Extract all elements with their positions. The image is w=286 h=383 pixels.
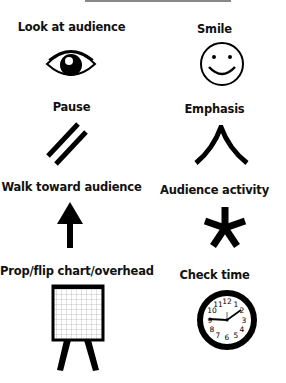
clock-numeral-4: 4 — [240, 325, 245, 334]
eye-icon — [45, 44, 97, 82]
label-walk-toward-audience: Walk toward audience — [0, 180, 143, 194]
label-smile: Smile — [143, 22, 286, 36]
clock-numeral-9: 9 — [208, 316, 213, 325]
label-look-at-audience: Look at audience — [0, 20, 143, 34]
label-prop-flip-chart-overhead: Prop/flip chart/overhead — [0, 264, 143, 278]
clock-numeral-3: 3 — [242, 316, 247, 325]
clock-numeral-12: 12 — [222, 297, 232, 306]
clock-numeral-11: 11 — [213, 300, 223, 309]
label-pause: Pause — [0, 100, 143, 114]
clock-numeral-5: 5 — [234, 331, 239, 340]
clock-icon: 12 1 2 3 4 5 6 7 8 9 10 11 — [196, 288, 258, 352]
caret-up-icon — [193, 125, 251, 167]
label-audience-activity: Audience activity — [143, 183, 286, 197]
clock-numeral-1: 1 — [234, 300, 239, 309]
top-rule — [85, 0, 231, 2]
arrow-up-icon — [56, 202, 84, 248]
flip-chart-icon — [51, 284, 105, 372]
clock-numeral-7: 7 — [216, 331, 221, 340]
label-check-time: Check time — [143, 268, 286, 282]
clock-numeral-8: 8 — [210, 325, 215, 334]
smiley-face-icon — [199, 41, 245, 87]
asterisk-icon — [203, 206, 247, 248]
double-slash-icon — [44, 120, 90, 166]
label-emphasis: Emphasis — [143, 102, 286, 116]
clock-numeral-6: 6 — [225, 333, 230, 342]
